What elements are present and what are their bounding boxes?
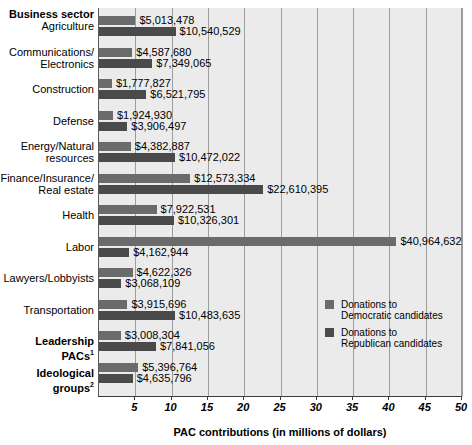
tick-mark-50 — [461, 396, 462, 400]
category-label-4: Energy/Naturalresources — [0, 140, 94, 164]
bar-republican-9 — [99, 311, 175, 320]
tick-label-30: 30 — [304, 401, 328, 413]
legend-label-democratic-line2: Democratic candidates — [341, 310, 443, 321]
bar-value-democratic-1: $4,587,680 — [136, 48, 191, 57]
legend-item-republican: Donations to Republican candidates — [325, 327, 443, 349]
tick-label-25: 25 — [268, 401, 292, 413]
bar-value-democratic-0: $5,013,478 — [139, 16, 194, 25]
row-header-label: Business sector — [0, 8, 94, 20]
bar-republican-0 — [99, 27, 176, 36]
legend-item-democratic: Donations to Democratic candidates — [325, 299, 443, 321]
category-label-8: Lawyers/Lobbyists — [0, 272, 94, 284]
category-label-3: Defense — [0, 115, 94, 127]
category-label-7: Labor — [0, 241, 94, 253]
gridline-50 — [462, 8, 463, 396]
bar-value-republican-9: $10,483,635 — [179, 311, 240, 320]
pac-contributions-chart: Business sector 5101520253035404550 PAC … — [0, 0, 472, 445]
bar-republican-8 — [99, 279, 121, 288]
tick-label-10: 10 — [159, 401, 183, 413]
bar-value-democratic-2: $1,777,827 — [116, 79, 171, 88]
bar-value-democratic-6: $7,922,531 — [161, 205, 216, 214]
bar-value-republican-5: $22,610,395 — [267, 185, 328, 194]
bar-value-republican-10: $7,841,056 — [160, 342, 215, 351]
bar-value-republican-7: $4,162,944 — [133, 248, 188, 257]
tick-label-5: 5 — [122, 401, 146, 413]
tick-mark-15 — [207, 396, 208, 400]
bar-democratic-5 — [99, 174, 190, 183]
bar-republican-2 — [99, 90, 146, 99]
bar-value-democratic-9: $3,915,696 — [131, 300, 186, 309]
category-label-6: Health — [0, 209, 94, 221]
tick-label-45: 45 — [413, 401, 437, 413]
bar-value-democratic-3: $1,924,930 — [117, 111, 172, 120]
bar-republican-7 — [99, 248, 129, 257]
category-label-11: Ideological groups2 — [0, 367, 94, 394]
tick-mark-25 — [280, 396, 281, 400]
tick-mark-35 — [352, 396, 353, 400]
bar-democratic-0 — [99, 16, 135, 25]
tick-label-20: 20 — [231, 401, 255, 413]
legend-label-republican-line1: Donations to — [341, 327, 443, 338]
bar-democratic-6 — [99, 205, 157, 214]
bar-value-republican-1: $7,349,065 — [156, 59, 211, 68]
bar-democratic-11 — [99, 363, 138, 372]
gridline-30 — [317, 8, 318, 396]
bar-democratic-1 — [99, 48, 132, 57]
bar-democratic-2 — [99, 79, 112, 88]
tick-mark-45 — [425, 396, 426, 400]
category-label-10: Leadership PACs1 — [0, 335, 94, 362]
bar-value-democratic-8: $4,622,326 — [137, 268, 192, 277]
bar-value-republican-2: $6,521,795 — [150, 90, 205, 99]
x-axis-title: PAC contributions (in millions of dollar… — [98, 426, 462, 438]
bar-republican-3 — [99, 122, 127, 131]
bar-republican-11 — [99, 374, 133, 383]
bar-democratic-8 — [99, 268, 133, 277]
bar-value-democratic-4: $4,382,887 — [135, 142, 190, 151]
gridline-20 — [244, 8, 245, 396]
gridline-25 — [281, 8, 282, 396]
bar-republican-5 — [99, 185, 263, 194]
bar-democratic-9 — [99, 300, 127, 309]
legend-swatch-democratic-icon — [325, 300, 334, 309]
legend-swatch-republican-icon — [325, 328, 334, 337]
legend-label-democratic-line1: Donations to — [341, 299, 443, 310]
category-label-9: Transportation — [0, 304, 94, 316]
tick-mark-10 — [171, 396, 172, 400]
bar-value-republican-3: $3,906,497 — [131, 122, 186, 131]
bar-value-democratic-10: $3,008,304 — [125, 331, 180, 340]
bar-republican-4 — [99, 153, 175, 162]
bar-republican-1 — [99, 59, 152, 68]
tick-label-50: 50 — [449, 401, 472, 413]
legend: Donations to Democratic candidates Donat… — [325, 299, 443, 355]
tick-mark-40 — [388, 396, 389, 400]
bar-value-republican-8: $3,068,109 — [125, 279, 180, 288]
bar-value-republican-4: $10,472,022 — [179, 153, 240, 162]
legend-label-republican-line2: Republican candidates — [341, 338, 443, 349]
tick-mark-5 — [134, 396, 135, 400]
bar-value-republican-6: $10,326,301 — [178, 216, 239, 225]
category-label-2: Construction — [0, 83, 94, 95]
bar-value-democratic-7: $40,964,632 — [400, 237, 461, 246]
bar-republican-10 — [99, 342, 156, 351]
tick-label-40: 40 — [376, 401, 400, 413]
category-label-5: Finance/Insurance/Real estate — [0, 172, 94, 196]
category-label-1: Communications/Electronics — [0, 46, 94, 70]
tick-label-35: 35 — [340, 401, 364, 413]
bar-value-democratic-11: $5,396,764 — [142, 363, 197, 372]
bar-republican-6 — [99, 216, 174, 225]
category-label-0: Agriculture — [0, 20, 94, 32]
tick-mark-20 — [243, 396, 244, 400]
bar-value-republican-0: $10,540,529 — [180, 27, 241, 36]
bar-democratic-4 — [99, 142, 131, 151]
bar-value-democratic-5: $12,573,334 — [194, 174, 255, 183]
bar-democratic-3 — [99, 111, 113, 120]
tick-mark-30 — [316, 396, 317, 400]
bar-value-republican-11: $4,635,796 — [137, 374, 192, 383]
bar-democratic-10 — [99, 331, 121, 340]
tick-label-15: 15 — [195, 401, 219, 413]
bar-democratic-7 — [99, 237, 396, 246]
